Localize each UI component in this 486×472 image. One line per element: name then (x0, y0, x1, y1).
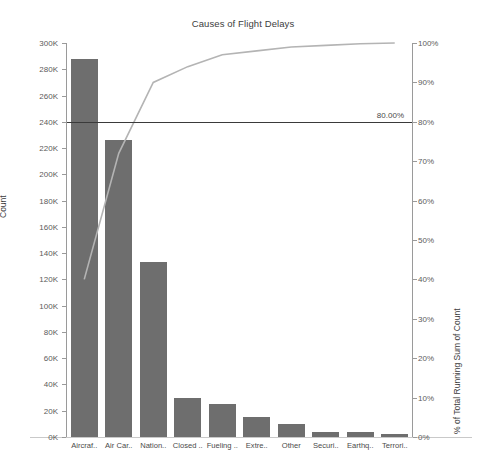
y-tick-left (62, 358, 66, 359)
y-tick-label-right: 50% (418, 236, 434, 245)
x-axis-label[interactable]: Closed .. (171, 441, 206, 450)
y-tick-right (413, 43, 417, 44)
x-axis-label[interactable]: Air Car.. (102, 441, 137, 450)
y-tick-label-left: 240K (2, 117, 58, 126)
x-axis-label[interactable]: Aircraf.. (67, 441, 102, 450)
y-tick-label-left: 300K (2, 39, 58, 48)
y-tick-label-right: 90% (418, 78, 434, 87)
y-tick-right (413, 82, 417, 83)
y-tick-label-left: 40K (2, 380, 58, 389)
y-tick-left (62, 437, 66, 438)
y-tick-label-right: 40% (418, 275, 434, 284)
x-axis-label[interactable]: Other (274, 441, 309, 450)
y-tick-right (413, 161, 417, 162)
y-tick-label-right: 10% (418, 393, 434, 402)
y-tick-label-left: 80K (2, 327, 58, 336)
y-tick-right (413, 358, 417, 359)
y-tick-right (413, 437, 417, 438)
y-axis-right-title: % of Total Running Sum of Count (452, 308, 462, 434)
y-tick-left (62, 122, 66, 123)
y-tick-right (413, 398, 417, 399)
y-tick-left (62, 69, 66, 70)
y-tick-label-left: 60K (2, 354, 58, 363)
x-axis-label[interactable]: Terrori.. (378, 441, 413, 450)
y-tick-left (62, 411, 66, 412)
x-axis-label[interactable]: Earthq.. (343, 441, 378, 450)
y-tick-label-left: 140K (2, 249, 58, 258)
y-tick-label-right: 30% (418, 314, 434, 323)
y-tick-label-right: 80% (418, 117, 434, 126)
x-axis-label[interactable]: Securi.. (309, 441, 344, 450)
y-tick-label-left: 20K (2, 406, 58, 415)
y-tick-label-left: 100K (2, 301, 58, 310)
chart-title: Causes of Flight Delays (0, 18, 486, 29)
reference-line-80 (67, 122, 412, 123)
y-tick-label-left: 120K (2, 275, 58, 284)
y-tick-left (62, 384, 66, 385)
y-tick-right (413, 201, 417, 202)
y-tick-label-right: 20% (418, 354, 434, 363)
y-tick-right (413, 279, 417, 280)
cumulative-line-series (67, 43, 412, 437)
y-tick-label-right: 60% (418, 196, 434, 205)
x-axis-label[interactable]: Extre.. (240, 441, 275, 450)
y-tick-left (62, 201, 66, 202)
y-tick-left (62, 227, 66, 228)
y-tick-label-right: 0% (418, 433, 430, 442)
x-axis-labels: Aircraf..Air Car..Nation..Closed ..Fueli… (67, 441, 412, 457)
y-tick-left (62, 174, 66, 175)
y-tick-label-left: 0K (2, 433, 58, 442)
y-tick-label-left: 280K (2, 65, 58, 74)
x-axis-label[interactable]: Fueling .. (205, 441, 240, 450)
y-tick-label-left: 160K (2, 222, 58, 231)
y-tick-left (62, 279, 66, 280)
y-tick-label-left: 220K (2, 144, 58, 153)
y-tick-right (413, 240, 417, 241)
y-tick-left (62, 332, 66, 333)
y-tick-label-right: 70% (418, 157, 434, 166)
y-tick-left (62, 306, 66, 307)
y-axis-left-title: Count (0, 195, 8, 218)
y-tick-label-right: 100% (418, 39, 438, 48)
y-tick-right (413, 319, 417, 320)
y-tick-label-left: 200K (2, 170, 58, 179)
y-tick-right (413, 122, 417, 123)
y-tick-left (62, 96, 66, 97)
x-axis-label[interactable]: Nation.. (136, 441, 171, 450)
y-tick-left (62, 43, 66, 44)
x-axis-line (30, 437, 472, 438)
pareto-chart: Causes of Flight Delays 0K20K40K60K80K10… (0, 0, 486, 472)
y-tick-label-left: 180K (2, 196, 58, 205)
reference-line-label: 80.00% (334, 111, 404, 120)
y-tick-left (62, 148, 66, 149)
y-tick-label-left: 260K (2, 91, 58, 100)
y-tick-left (62, 253, 66, 254)
